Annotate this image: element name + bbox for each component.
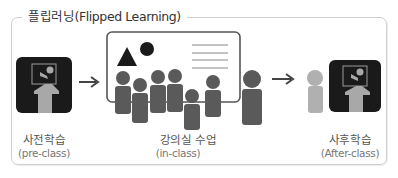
stage-label-pre: 사전학습 xyxy=(14,131,74,147)
arrow-right-icon xyxy=(79,77,98,87)
stage-sublabel-in: (in-class) xyxy=(148,147,208,159)
arrow-right-icon xyxy=(272,74,293,84)
stage-sublabel-after: (After-class) xyxy=(310,147,390,159)
online-review-icon xyxy=(307,60,381,113)
stage-sublabel-pre: (pre-class) xyxy=(8,147,80,159)
classroom-icon xyxy=(107,32,262,130)
stage-label-after: 사후학습 xyxy=(320,131,380,147)
online-lecture-icon xyxy=(16,57,72,113)
stage-label-in: 강의실 수업 xyxy=(148,131,228,147)
